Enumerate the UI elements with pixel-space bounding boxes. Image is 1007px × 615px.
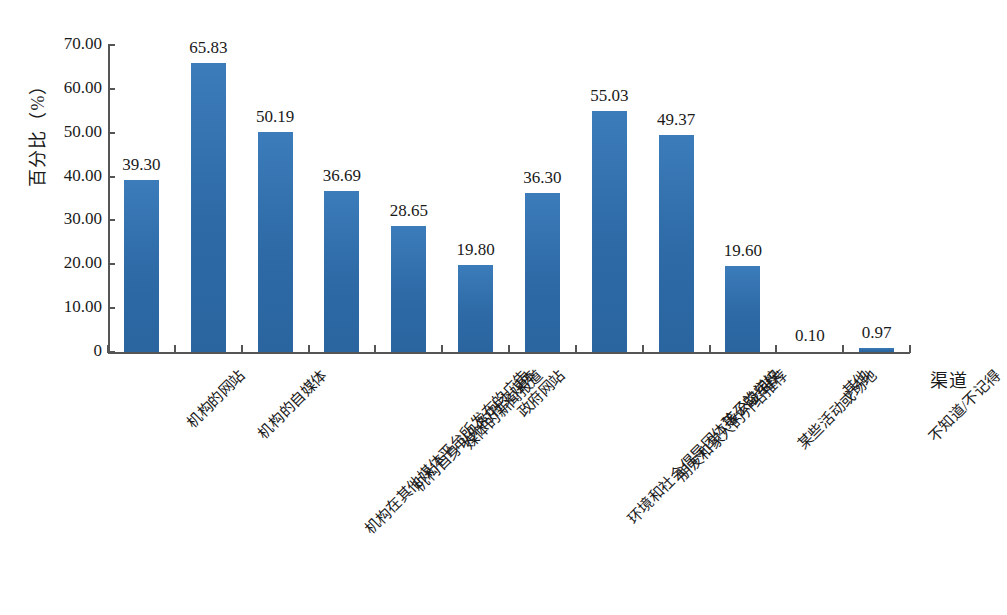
x-axis-tick: [107, 345, 109, 353]
bar-value-label: 65.83: [163, 38, 253, 58]
x-axis-tick: [241, 345, 243, 353]
bar-value-label: 55.03: [564, 86, 654, 106]
x-axis-tick: [709, 345, 711, 353]
bar: [191, 63, 226, 352]
bar: [659, 135, 694, 352]
y-axis-tick: [108, 219, 115, 221]
x-axis-title: 渠道: [930, 366, 968, 392]
y-axis-tick-label: 20.00: [34, 253, 102, 273]
bar: [525, 193, 560, 352]
y-axis-tick: [108, 263, 115, 265]
x-axis-tick: [775, 345, 777, 353]
bar: [458, 265, 493, 352]
bar-value-label: 39.30: [96, 155, 186, 175]
bar: [725, 266, 760, 352]
bar-value-label: 49.37: [631, 110, 721, 130]
x-axis-tick: [508, 345, 510, 353]
y-axis-tick: [108, 132, 115, 134]
bar-value-label: 36.30: [497, 168, 587, 188]
bar-value-label: 0.97: [832, 323, 922, 343]
x-axis-tick: [642, 345, 644, 353]
y-axis-tick: [108, 44, 115, 46]
bar-value-label: 28.65: [364, 201, 454, 221]
y-axis-tick: [108, 176, 115, 178]
bar: [592, 111, 627, 352]
x-axis-tick: [308, 345, 310, 353]
y-axis-tick-label: 70.00: [34, 34, 102, 54]
x-axis-tick: [909, 345, 911, 353]
bar: [391, 226, 426, 352]
bar: [258, 132, 293, 352]
y-axis-tick-label: 60.00: [34, 78, 102, 98]
y-axis-tick-label: 40.00: [34, 166, 102, 186]
bar-value-label: 36.69: [297, 166, 387, 186]
bar: [124, 180, 159, 352]
bar-value-label: 19.80: [431, 240, 521, 260]
x-axis-tick: [374, 345, 376, 353]
bar-value-label: 19.60: [698, 241, 788, 261]
y-axis-tick: [108, 307, 115, 309]
bar-value-label: 50.19: [230, 107, 320, 127]
bar-chart: 百分比（%） 010.0020.0030.0040.0050.0060.0070…: [0, 0, 1007, 615]
x-axis-tick: [174, 345, 176, 353]
y-axis-tick-label: 30.00: [34, 209, 102, 229]
bar: [792, 351, 827, 352]
x-axis-tick: [575, 345, 577, 353]
y-axis-tick: [108, 88, 115, 90]
x-axis-category-label: 机构的自媒体: [253, 364, 331, 442]
y-axis-tick-label: 50.00: [34, 122, 102, 142]
x-axis-tick: [441, 345, 443, 353]
y-axis-tick-label: 10.00: [34, 297, 102, 317]
x-axis-category-label: 孩子的学校: [716, 364, 784, 432]
bar: [324, 191, 359, 352]
x-axis-tick: [842, 345, 844, 353]
bar: [859, 348, 894, 352]
x-axis-category-label: 机构的网站: [181, 364, 249, 432]
y-axis-tick-label: 0: [34, 341, 102, 361]
